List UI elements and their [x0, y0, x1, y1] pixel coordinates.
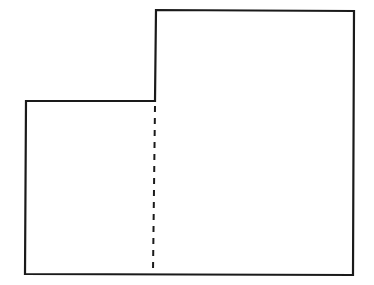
- composite-rectangle-diagram: [0, 0, 374, 285]
- l-shaped-outline: [25, 10, 354, 275]
- dashed-divider-line: [153, 106, 155, 272]
